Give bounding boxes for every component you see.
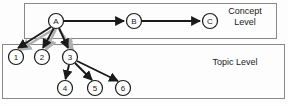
node-4-label: 4 (63, 84, 68, 93)
node-1-label: 1 (14, 53, 19, 62)
diagram-svg: A B C 1 2 3 (0, 0, 288, 106)
group-labels: Concept Level Topic Level (212, 6, 262, 67)
node-4[interactable]: 4 (58, 81, 73, 96)
nodes: A B C 1 2 3 (9, 14, 218, 96)
node-3[interactable]: 3 (63, 50, 78, 65)
node-6-label: 6 (121, 84, 126, 93)
edge-3-5[interactable] (75, 63, 92, 80)
node-2[interactable]: 2 (35, 50, 50, 65)
node-1[interactable]: 1 (9, 50, 24, 65)
node-2-label: 2 (40, 53, 45, 62)
topic-level-label: Topic Level (212, 57, 257, 67)
node-5[interactable]: 5 (88, 81, 103, 96)
node-b-label: B (131, 17, 136, 26)
node-6[interactable]: 6 (116, 81, 131, 96)
node-c[interactable]: C (203, 14, 218, 29)
concept-level-label-line2: Level (234, 17, 256, 27)
edge-3-4[interactable] (66, 65, 70, 79)
node-c-label: C (207, 17, 213, 26)
edge-a-1-shadow (20, 29, 54, 50)
node-b[interactable]: B (127, 14, 142, 29)
node-3-label: 3 (68, 53, 73, 62)
node-5-label: 5 (93, 84, 98, 93)
diagram-canvas: A B C 1 2 3 (0, 0, 288, 106)
node-a-label: A (53, 17, 59, 26)
node-a[interactable]: A (49, 14, 64, 29)
concept-level-label-line1: Concept (228, 6, 262, 16)
